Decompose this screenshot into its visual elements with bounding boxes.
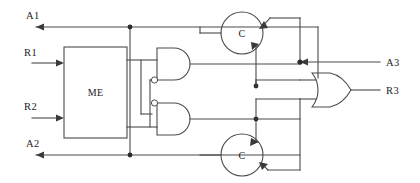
junction-a3-bus bbox=[297, 59, 302, 64]
circuit-diagram-svg: ME R1 R2 A1 A2 bbox=[0, 0, 420, 183]
wire-or-lower-feed bbox=[256, 99, 300, 119]
and-gate-bottom bbox=[151, 100, 300, 135]
label-a1: A1 bbox=[26, 10, 40, 21]
label-r1: R1 bbox=[24, 47, 37, 58]
wire-c-top-input-upper bbox=[259, 18, 300, 64]
c-element-top-label: C bbox=[239, 28, 246, 39]
wire-a3-input bbox=[300, 59, 380, 66]
wire-c-bottom-input-upper bbox=[250, 119, 259, 146]
wire-a2-output bbox=[36, 152, 300, 159]
wire-c-top-output bbox=[200, 27, 221, 33]
label-r3: R3 bbox=[386, 85, 399, 96]
circuit-diagram-page: ME R1 R2 A1 A2 bbox=[0, 0, 420, 183]
label-a2: A2 bbox=[26, 138, 40, 149]
label-r2: R2 bbox=[24, 101, 37, 112]
and-gate-top bbox=[151, 48, 300, 83]
me-block-label: ME bbox=[88, 87, 104, 98]
c-element-bottom-label: C bbox=[239, 150, 246, 161]
label-a3: A3 bbox=[386, 57, 400, 68]
wire-r1-input bbox=[32, 60, 64, 67]
junction-a1-bus bbox=[128, 25, 133, 30]
or-gate bbox=[300, 73, 380, 107]
wire-c-bottom-input-lower bbox=[259, 99, 300, 170]
wire-or-upper-feed bbox=[256, 80, 300, 86]
inverter-bubble-top-and bbox=[151, 77, 157, 83]
junction-a2-bus bbox=[128, 153, 133, 158]
inverter-bubble-bottom-and bbox=[151, 100, 157, 106]
wire-r2-input bbox=[32, 115, 64, 122]
